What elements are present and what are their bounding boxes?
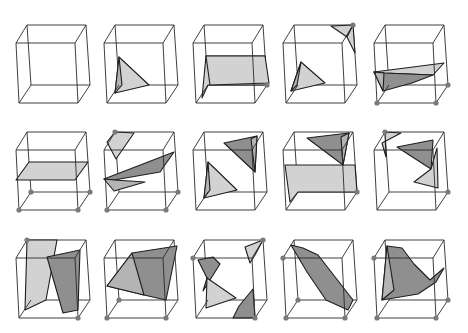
marked-vertex-dot [433,315,438,320]
cube-edge [345,85,357,103]
cube-edge [286,300,298,318]
marked-vertex-dot [354,189,359,194]
cube-edge [75,240,86,258]
marked-vertex-dot [350,22,355,27]
isosurface-triangle [206,56,269,85]
marked-vertex-dot [75,315,80,320]
cube-edge [255,85,267,103]
cube-edge [107,85,119,103]
isosurface-triangle [245,240,263,263]
cube-edge [436,85,448,103]
cube-edge [444,240,448,300]
isosurface-triangle [206,278,236,308]
marching-cubes-figure [0,0,468,333]
cube-edge [196,192,208,210]
marked-vertex-dot [104,207,109,212]
marked-vertex-dot [374,315,379,320]
marked-vertex-dot [382,129,387,134]
cube-edge [174,25,178,85]
cube-edge [196,85,208,103]
marked-vertex-dot [374,100,379,105]
cube-case-6 [104,129,181,212]
cube-edge [263,240,267,300]
cube-edge [374,258,377,318]
cube-edge [107,300,119,318]
cube-edge [16,132,27,150]
cube-edge [374,240,385,258]
cube-edge [75,25,86,43]
cube-edge [16,43,19,103]
marked-vertex-dot [163,207,168,212]
cube-edge [163,132,174,150]
cube-edge [283,240,294,258]
marked-vertex-dot [371,255,376,260]
marked-vertex-dot [283,315,288,320]
cube-case-9 [374,129,451,210]
marked-vertex-dot [16,207,21,212]
cube-edge [255,300,267,318]
cube-case-1 [104,25,178,103]
isosurface-triangle [285,165,357,202]
cube-edge [78,192,90,210]
cube-edge [374,25,385,43]
cube-edge [433,25,444,43]
marked-vertex-dot [252,315,257,320]
cube-edge [436,300,448,318]
cube-edge [166,300,178,318]
cube-edge [16,240,27,258]
cube-edge [193,258,196,318]
cube-edge [283,258,286,318]
cube-edge [86,240,90,300]
marked-vertex-dot [116,297,121,302]
cube-edge [104,43,107,103]
cube-case-10 [16,237,90,320]
cube-edge [436,192,448,210]
marked-vertex-dot [260,237,265,242]
marked-vertex-dot [295,297,300,302]
isosurface-triangle [233,289,255,318]
cube-edge [283,150,286,210]
cube-edge [193,240,204,258]
cube-case-13 [280,240,357,321]
cube-edge [377,192,389,210]
marked-vertex-dot [28,189,33,194]
cube-edge [345,192,357,210]
marked-vertex-dot [433,100,438,105]
isosurface-triangle [397,140,433,169]
cube-edge [444,132,448,192]
cube-case-11 [104,240,178,321]
cube-case-12 [190,237,267,320]
cube-case-7 [193,132,267,210]
marked-vertex-dot [175,189,180,194]
cube-edge [193,25,204,43]
cube-edge [27,25,31,85]
marked-vertex-dot [163,315,168,320]
marked-vertex-dot [104,315,109,320]
cube-edge [78,85,90,103]
cube-edge [19,192,31,210]
cube-case-2 [193,25,270,103]
cube-edge [433,132,444,150]
cube-edge [252,25,263,43]
cube-case-3 [283,22,357,103]
cube-edge [283,25,294,43]
cube-edge [342,43,345,103]
cube-edge [353,240,357,300]
cube-edge [115,240,119,300]
cube-edge [193,150,196,210]
cube-case-14 [371,240,450,321]
isosurface-triangle [16,162,88,180]
cube-case-5 [16,132,93,213]
cube-case-8 [283,132,360,210]
isosurface-triangle [104,179,145,191]
cube-edge [166,85,178,103]
cube-edge [16,258,19,318]
cube-edge [166,192,178,210]
marked-vertex-dot [280,255,285,260]
cube-edge [16,25,27,43]
marked-vertex-dot [445,189,450,194]
cube-edge [163,25,174,43]
cube-edge [263,132,267,192]
cube-edge [193,132,204,150]
cube-edge [283,132,294,150]
